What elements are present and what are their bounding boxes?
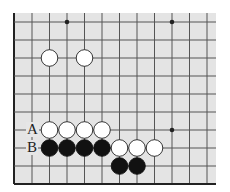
white-stone (59, 122, 76, 139)
point-label-b: B (26, 140, 38, 155)
white-stone (76, 50, 93, 67)
white-stone (94, 122, 111, 139)
black-stone (94, 140, 111, 157)
star-point (170, 20, 175, 25)
black-stone (41, 140, 58, 157)
white-stone (41, 122, 58, 139)
white-stone (146, 140, 163, 157)
black-stone (59, 140, 76, 157)
go-board (0, 0, 230, 192)
point-label-a: A (26, 122, 39, 137)
white-stone (129, 140, 146, 157)
star-point (65, 20, 70, 25)
star-point (170, 128, 175, 133)
white-stone (41, 50, 58, 67)
black-stone (76, 140, 93, 157)
black-stone (111, 158, 128, 175)
white-stone (111, 140, 128, 157)
black-stone (129, 158, 146, 175)
white-stone (76, 122, 93, 139)
